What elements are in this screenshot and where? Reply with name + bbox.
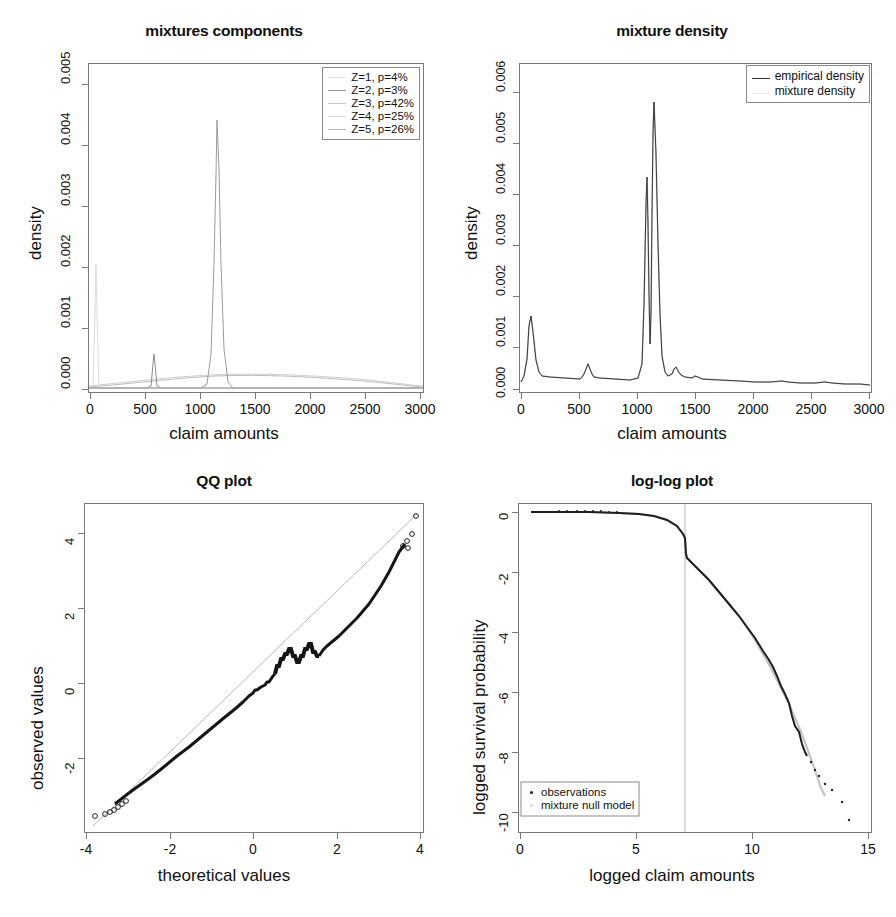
observation-point bbox=[608, 511, 610, 513]
y-tick-label-0002: 0.002 bbox=[58, 234, 73, 267]
series-line-observations bbox=[531, 512, 807, 756]
plot-area-log-log-plot: observations mixture null model bbox=[518, 503, 872, 833]
y-tick-label-0006: 0.006 bbox=[494, 61, 508, 92]
legend-item: Z=2, p=3% bbox=[327, 84, 414, 97]
qq-point-outlier bbox=[93, 814, 98, 819]
x-tick-mark bbox=[637, 393, 638, 399]
x-tick-label-1500: 1500 bbox=[235, 401, 275, 417]
x-tick-mark bbox=[253, 833, 254, 839]
observation-point bbox=[600, 510, 602, 512]
plot-area-mixtures-components: Z=1, p=4% Z=2, p=3% Z=3, p=42% Z=4, p=25… bbox=[88, 63, 424, 393]
legend-item: mixture null model bbox=[527, 799, 639, 812]
legend-label-z5: Z=5, p=26% bbox=[351, 123, 414, 136]
legend-mixture-density: empirical density mixture density bbox=[746, 65, 870, 103]
observation-point bbox=[814, 769, 816, 771]
legend-line-swatch-z3 bbox=[327, 98, 347, 109]
observation-point bbox=[566, 510, 568, 512]
legend-label-z2: Z=2, p=3% bbox=[351, 84, 407, 97]
legend-mixtures-components: Z=1, p=4% Z=2, p=3% Z=3, p=42% Z=4, p=25… bbox=[322, 67, 420, 140]
observation-point bbox=[592, 510, 594, 512]
y-tick-label-0: 0 bbox=[496, 513, 511, 520]
x-tick-label-0: 0 bbox=[500, 841, 540, 857]
x-tick-label-500: 500 bbox=[559, 401, 599, 417]
x-tick-mark bbox=[868, 833, 869, 839]
y-tick-label-0003: 0.003 bbox=[58, 173, 73, 206]
x-tick-mark bbox=[365, 393, 366, 399]
legend-line-swatch-z2 bbox=[327, 85, 347, 96]
legend-dot-swatch-observations bbox=[527, 787, 537, 798]
observation-point bbox=[584, 510, 586, 512]
qq-trace-lower bbox=[115, 674, 275, 804]
y-tick-label-0004: 0.004 bbox=[58, 112, 73, 145]
x-tick-mark bbox=[752, 833, 753, 839]
x-tick-mark bbox=[420, 393, 421, 399]
y-tick-label-m2: -2 bbox=[496, 573, 511, 585]
legend-label-mixture-density: mixture density bbox=[775, 85, 856, 98]
series-line-z3 bbox=[89, 120, 423, 388]
legend-label-empirical-density: empirical density bbox=[775, 70, 864, 83]
observation-point bbox=[810, 761, 812, 763]
legend-label-z1: Z=1, p=4% bbox=[351, 71, 407, 84]
x-tick-label-500: 500 bbox=[125, 401, 165, 417]
y-axis-title-qq-plot: observed values bbox=[28, 666, 48, 790]
x-tick-label-5: 5 bbox=[616, 841, 656, 857]
x-tick-mark bbox=[420, 833, 421, 839]
legend-label-observations: observations bbox=[541, 786, 606, 799]
qq-trace-steps bbox=[275, 644, 319, 674]
x-tick-label-0: 0 bbox=[501, 401, 541, 417]
legend-item: Z=5, p=26% bbox=[327, 123, 414, 136]
y-axis-title-log-log-plot: logged survival probability bbox=[470, 619, 490, 815]
y-tick-label-m4: -4 bbox=[496, 632, 511, 644]
x-tick-label-10: 10 bbox=[732, 841, 772, 857]
y-tick-label-m6: -6 bbox=[496, 692, 511, 704]
plot-title-mixture-density: mixture density bbox=[448, 22, 896, 40]
y-tick-label-0000: 0.000 bbox=[58, 356, 73, 389]
observation-point bbox=[831, 789, 833, 791]
legend-dot-swatch-mixture-null-model bbox=[527, 800, 537, 811]
legend-item: mixture density bbox=[751, 84, 864, 99]
x-axis-title-mixture-density: claim amounts bbox=[448, 424, 896, 444]
x-tick-mark bbox=[695, 393, 696, 399]
y-tick-label-0: 0 bbox=[62, 688, 77, 695]
series-line-empirical-density bbox=[521, 102, 870, 385]
legend-item: Z=4, p=25% bbox=[327, 110, 414, 123]
legend-item: Z=1, p=4% bbox=[327, 71, 414, 84]
series-line-mixture-density bbox=[521, 102, 870, 385]
y-tick-label-m2: -2 bbox=[62, 762, 77, 774]
observation-point bbox=[616, 511, 618, 513]
x-tick-mark bbox=[86, 833, 87, 839]
x-tick-label-2000: 2000 bbox=[290, 401, 330, 417]
legend-line-swatch-empirical bbox=[751, 71, 771, 82]
qq-trace-upper bbox=[319, 544, 405, 656]
x-tick-mark bbox=[170, 833, 171, 839]
panel-qq-plot: QQ plot observed values 4 2 0 -2 bbox=[0, 460, 448, 917]
x-tick-label-1500: 1500 bbox=[675, 401, 715, 417]
observation-point bbox=[841, 801, 843, 803]
series-line-z1 bbox=[89, 264, 423, 388]
x-tick-label-2500: 2500 bbox=[791, 401, 831, 417]
x-tick-mark bbox=[521, 393, 522, 399]
x-tick-mark bbox=[255, 393, 256, 399]
legend-label-mixture-null-model: mixture null model bbox=[541, 799, 634, 812]
x-tick-label-2500: 2500 bbox=[345, 401, 385, 417]
x-axis-title-log-log-plot: logged claim amounts bbox=[448, 866, 896, 886]
observation-point bbox=[576, 510, 578, 512]
observation-point bbox=[558, 510, 560, 512]
legend-item: Z=3, p=42% bbox=[327, 97, 414, 110]
legend-line-swatch-z5 bbox=[327, 124, 347, 135]
plot-title-qq-plot: QQ plot bbox=[0, 472, 448, 490]
plot-area-qq-plot bbox=[84, 503, 424, 833]
x-tick-label-2: 2 bbox=[317, 841, 357, 857]
qq-point-outlier bbox=[124, 799, 129, 804]
y-tick-label-0003: 0.003 bbox=[494, 214, 508, 245]
x-tick-mark bbox=[869, 393, 870, 399]
qq-point-outlier bbox=[405, 539, 410, 544]
qq-plot-points bbox=[85, 504, 423, 832]
x-tick-mark bbox=[145, 393, 146, 399]
y-tick-label-m8: -8 bbox=[496, 752, 511, 764]
panel-mixtures-components: mixtures components density 0.005 0.004 … bbox=[0, 0, 448, 460]
qq-point-outlier bbox=[410, 532, 415, 537]
x-tick-label-m4: -4 bbox=[66, 841, 106, 857]
plot-title-mixtures-components: mixtures components bbox=[0, 22, 448, 40]
x-tick-mark bbox=[579, 393, 580, 399]
